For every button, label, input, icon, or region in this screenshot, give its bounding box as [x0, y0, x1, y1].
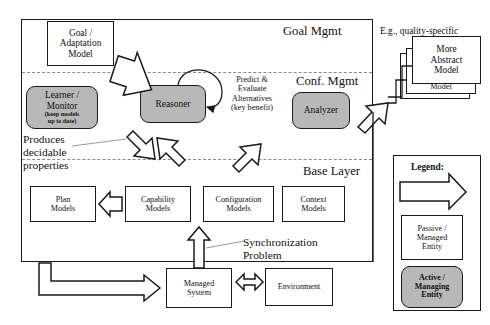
arrow-models-to-analyzer	[233, 144, 261, 172]
arrow-base-layer-to-managed-system	[39, 263, 160, 301]
arrow-goal-model-to-reasoner	[107, 47, 161, 103]
leader-produces-decidable	[72, 139, 126, 146]
leader-synchronization-problem	[206, 241, 244, 248]
arrow-configuration-models-to-reasoner	[157, 138, 185, 166]
diagram-canvas: Goal Mgmt Conf. Mgmt Base Layer Goal / A…	[0, 0, 490, 325]
arrow-managed-system-environment	[236, 274, 263, 290]
arrow-reasoner-to-plan-models	[127, 131, 155, 159]
model-stack-connector-lines	[373, 66, 412, 262]
arrow-capability-to-plan-models	[99, 192, 122, 216]
arrow-reasoner-self-loop	[178, 70, 222, 108]
legend-data-flow-arrow	[400, 174, 466, 209]
connector-layer: .ar{fill:#ffffff;stroke:#1a1a1a;stroke-w…	[0, 0, 490, 325]
